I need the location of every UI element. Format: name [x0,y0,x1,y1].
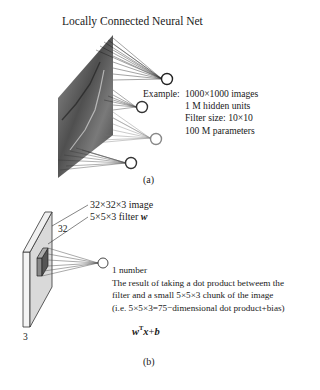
formula-b: b [155,326,160,337]
output-description: 1 number The result of taking a dot prod… [112,264,285,314]
example-line-filter-size: Filter size: 10×10 [185,112,258,124]
output-neuron [98,258,108,268]
filter-size-label: 5×5×3 filter w [90,211,147,222]
output-line-2: The result of taking a dot product betwe… [112,277,285,290]
image-size-label: 32×32×3 image [90,199,153,210]
example-line-hidden-units: 1 M hidden units [185,100,258,112]
dimension-depth-label: 3 [23,332,28,342]
hidden-unit-2 [137,102,148,113]
example-details: 1000×1000 images 1 M hidden units Filter… [185,88,258,137]
hidden-unit-1 [162,74,173,85]
image-label-leader [52,205,88,226]
hidden-unit-3 [151,134,162,145]
output-line-1: 1 number [112,264,285,277]
filter-symbol: w [141,211,148,222]
panel-a-title: Locally Connected Neural Net [62,15,203,27]
hidden-unit-4 [126,158,137,169]
output-line-3: filter and a small 5×5×3 chunk of the im… [112,289,285,302]
example-line-images: 1000×1000 images [185,88,258,100]
filter-label-leader [48,217,88,244]
dimension-width-label: 32 [58,224,68,234]
formula-w: w [132,326,139,337]
example-line-parameters: 100 M parameters [185,125,258,137]
caption-a: (a) [143,174,154,185]
filter-size-text: 5×5×3 filter [90,211,138,222]
example-label: Example: [143,88,180,100]
dot-product-formula: wTx+b [132,324,160,337]
caption-b: (b) [143,356,155,367]
output-line-4: (i.e. 5×5×3=75−dimensional dot product+b… [112,302,285,315]
